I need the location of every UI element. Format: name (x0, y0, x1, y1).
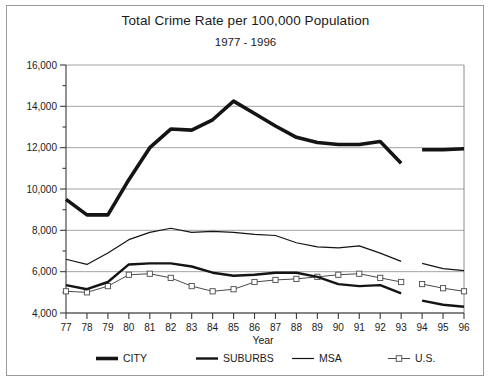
data-point-marker (399, 279, 404, 284)
data-point-marker (273, 277, 278, 282)
x-axis-title: Year (252, 334, 274, 346)
x-tick-label: 93 (396, 322, 408, 333)
x-tick-label: 89 (312, 322, 324, 333)
legend-label: U.S. (415, 352, 435, 364)
y-tick-label: 8,000 (32, 225, 57, 236)
data-point-marker (294, 276, 299, 281)
legend-item-msa[interactable]: MSA (292, 352, 342, 364)
data-point-marker (231, 287, 236, 292)
chart-figure: Total Crime Rate per 100,000 Population … (0, 0, 491, 382)
data-point-marker (189, 284, 194, 289)
x-axis-labels: 7778798081828384858687888990919293949596 (60, 322, 470, 333)
data-point-marker (168, 275, 173, 280)
data-point-marker (461, 289, 466, 294)
x-tick-label: 84 (207, 322, 219, 333)
series-line (66, 101, 401, 215)
x-tick-label: 81 (144, 322, 156, 333)
legend-item-us[interactable]: U.S. (388, 352, 435, 364)
y-tick-label: 4,000 (32, 308, 57, 319)
series-line (422, 263, 464, 270)
data-point-marker (336, 272, 341, 277)
data-point-marker (252, 279, 257, 284)
data-point-marker (105, 284, 110, 289)
data-point-marker (378, 275, 383, 280)
x-tick-label: 86 (249, 322, 261, 333)
x-tick-label: 91 (354, 322, 366, 333)
y-tick-label: 10,000 (26, 184, 57, 195)
x-tick-label: 83 (186, 322, 198, 333)
data-point-marker (63, 289, 68, 294)
y-axis-ticks (60, 65, 66, 313)
series-line (422, 149, 464, 150)
series-line (66, 228, 401, 264)
x-tick-label: 77 (60, 322, 72, 333)
legend-item-suburbs[interactable]: SUBURBS (196, 352, 274, 364)
x-tick-label: 96 (458, 322, 470, 333)
x-tick-label: 78 (81, 322, 93, 333)
x-tick-label: 79 (102, 322, 114, 333)
chart-legend: CITYSUBURBSMSAU.S. (96, 352, 435, 364)
data-point-marker (210, 289, 215, 294)
x-tick-label: 95 (437, 322, 449, 333)
x-tick-label: 87 (270, 322, 282, 333)
x-tick-label: 94 (417, 322, 429, 333)
gridlines (66, 65, 464, 313)
data-point-marker (420, 281, 425, 286)
x-tick-label: 90 (333, 322, 345, 333)
y-tick-label: 6,000 (32, 266, 57, 277)
series-line (422, 301, 464, 307)
x-tick-label: 82 (165, 322, 177, 333)
y-axis-labels: 16,00014,00012,00010,0008,0006,0004,000 (26, 60, 57, 319)
y-tick-label: 16,000 (26, 60, 57, 71)
data-point-marker (147, 271, 152, 276)
x-tick-label: 80 (123, 322, 135, 333)
series-city (66, 101, 464, 215)
legend-label: CITY (123, 352, 147, 364)
x-tick-label: 85 (228, 322, 240, 333)
x-tick-label: 92 (375, 322, 387, 333)
data-series (63, 101, 466, 307)
y-tick-label: 14,000 (26, 101, 57, 112)
data-point-marker (440, 286, 445, 291)
legend-marker-square (396, 356, 402, 362)
series-suburbs (66, 263, 464, 306)
x-axis-ticks (66, 313, 464, 319)
x-tick-label: 88 (291, 322, 303, 333)
data-point-marker (357, 271, 362, 276)
series-msa (66, 228, 464, 270)
legend-label: MSA (319, 352, 342, 364)
y-tick-label: 12,000 (26, 142, 57, 153)
legend-label: SUBURBS (223, 352, 274, 364)
data-point-marker (126, 272, 131, 277)
legend-item-city[interactable]: CITY (96, 352, 147, 364)
data-point-marker (84, 290, 89, 295)
plot-area: 16,00014,00012,00010,0008,0006,0004,000 … (0, 0, 491, 382)
